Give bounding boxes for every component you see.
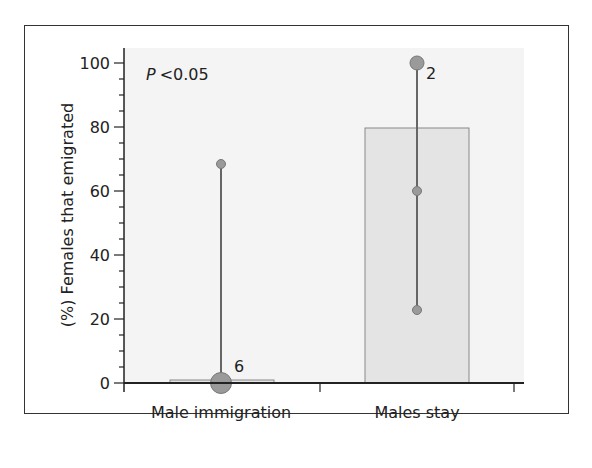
sample-size-label: 6 (234, 357, 244, 376)
data-point (217, 160, 226, 169)
x-category-label: Males stay (374, 403, 459, 422)
y-axis-title: (%) Females that emigrated (58, 103, 77, 327)
p-symbol: P (146, 65, 156, 84)
y-tick-label: 60 (90, 182, 110, 201)
chart-area: 6 2 0 20 40 60 80 100 (%) Females that e… (0, 0, 592, 468)
p-value: <0.05 (160, 65, 209, 84)
data-point (413, 187, 422, 196)
y-tick-label: 80 (90, 118, 110, 137)
y-ticks (114, 63, 124, 383)
y-tick-label: 40 (90, 246, 110, 265)
sample-size-label: 2 (426, 64, 436, 83)
data-point-large (410, 56, 424, 70)
y-tick-label: 20 (90, 310, 110, 329)
p-value-annotation: P<0.05 (146, 65, 209, 84)
y-tick-label: 100 (79, 54, 110, 73)
data-point (413, 306, 422, 315)
y-tick-label: 0 (100, 374, 110, 393)
x-category-label: Male immigration (151, 403, 291, 422)
